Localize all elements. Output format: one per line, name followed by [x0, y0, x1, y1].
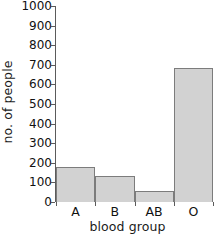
y-axis-tick-mark	[51, 163, 55, 164]
y-axis-tick-mark	[51, 65, 55, 66]
y-axis-tick-label: 500	[16, 98, 52, 110]
y-axis-tick-label: 300	[16, 137, 52, 149]
bar-series	[56, 6, 213, 202]
plot-area	[55, 6, 213, 202]
y-axis-tick-mark	[51, 45, 55, 46]
y-axis-tick-mark	[51, 104, 55, 105]
x-axis-tick-label: O	[174, 205, 213, 219]
y-axis-tick-label: 1000	[16, 0, 52, 12]
y-axis-tick-mark	[51, 26, 55, 27]
y-axis-tick-label: 800	[16, 39, 52, 51]
y-axis-tick-mark	[51, 84, 55, 85]
y-axis-tick-label: 900	[16, 20, 52, 32]
y-axis-tick-label: 400	[16, 118, 52, 130]
bar-o	[174, 68, 213, 202]
bar-a	[56, 167, 95, 202]
y-axis-tick-mark	[51, 182, 55, 183]
y-axis-title: no. of people	[0, 4, 16, 200]
x-axis-tick-label: AB	[135, 205, 174, 219]
bar-b	[95, 176, 134, 202]
x-axis-tick-label: B	[95, 205, 134, 219]
bar-chart: no. of people 01002003004005006007008009…	[0, 0, 219, 235]
y-axis-tick-mark	[51, 6, 55, 7]
y-axis-tick-label: 0	[16, 196, 52, 208]
y-axis-tick-mark	[51, 202, 55, 203]
y-axis-tick-label: 100	[16, 176, 52, 188]
x-axis-title: blood group	[40, 220, 215, 234]
bar-ab	[135, 191, 174, 202]
y-axis-tick-mark	[51, 143, 55, 144]
y-axis-tick-label: 200	[16, 157, 52, 169]
y-axis-tick-mark	[51, 124, 55, 125]
x-axis-tick-label: A	[56, 205, 95, 219]
x-axis-tick-mark	[213, 202, 214, 206]
y-axis-tick-label: 600	[16, 78, 52, 90]
y-axis-tick-label: 700	[16, 59, 52, 71]
y-axis-tick-labels: 01002003004005006007008009001000	[16, 0, 52, 210]
